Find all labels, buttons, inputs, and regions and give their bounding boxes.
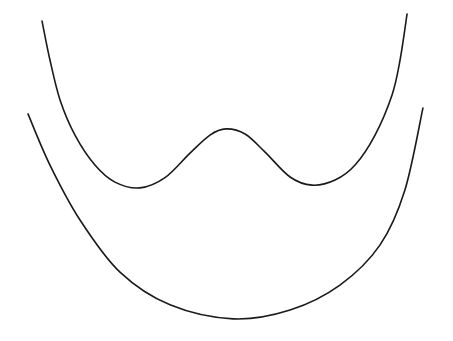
- series-line-parabola: [28, 108, 423, 319]
- series-layer: [28, 14, 423, 319]
- series-line-double-well: [42, 14, 407, 188]
- chart-plot-area: [0, 0, 453, 341]
